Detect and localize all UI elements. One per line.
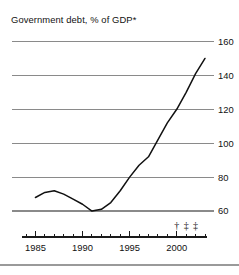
series-line-0 xyxy=(35,58,205,211)
y-tick-label-160: 160 xyxy=(218,36,234,47)
footnote-markers: †‡‡ xyxy=(174,220,198,231)
y-tick-label-100: 100 xyxy=(218,138,234,149)
x-axis-ticks xyxy=(26,231,205,237)
y-tick-label-120: 120 xyxy=(218,104,234,115)
y-tick-label-140: 140 xyxy=(218,70,234,81)
chart-plot-area: 6080100120140160 †‡‡ 1985199019952000 xyxy=(0,0,239,275)
x-tick-label-1990: 1990 xyxy=(72,242,93,253)
footnote-marker-0: † xyxy=(174,220,179,231)
y-axis-tick-labels: 6080100120140160 xyxy=(218,36,234,217)
x-axis-tick-labels: 1985199019952000 xyxy=(25,242,187,253)
x-tick-label-1985: 1985 xyxy=(25,242,46,253)
gridlines xyxy=(12,41,208,211)
y-axis-tick-stubs xyxy=(208,41,214,211)
y-tick-label-60: 60 xyxy=(218,205,228,216)
data-series-line xyxy=(35,58,205,211)
y-tick-label-80: 80 xyxy=(218,172,228,183)
footnote-marker-2: ‡ xyxy=(193,220,198,231)
x-tick-label-2000: 2000 xyxy=(166,242,187,253)
chart-figure: Government debt, % of GDP* 6080100120140… xyxy=(0,0,239,275)
footnote-marker-1: ‡ xyxy=(184,220,189,231)
x-tick-label-1995: 1995 xyxy=(119,242,140,253)
